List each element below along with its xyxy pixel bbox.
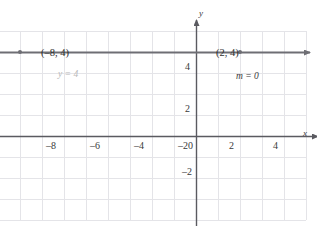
x-tick-label: 4 [273, 141, 278, 151]
x-tick-label: –8 [46, 141, 56, 151]
equation-label: y = 4 [58, 70, 78, 80]
x-tick-label: –4 [134, 141, 144, 151]
x-tick-label: 2 [229, 141, 234, 151]
x-tick-label: –2 [178, 141, 188, 151]
x-tick-origin-label: 0 [188, 141, 193, 151]
point-label-left: (–8, 4) [41, 48, 69, 59]
point-label-right: (2, 4) [216, 48, 239, 59]
slope-label: m = 0 [236, 72, 259, 82]
graph-figure: –8 –6 –4 –2 0 2 4 4 2 –2 y x (–8, 4) (2,… [0, 0, 317, 226]
coordinate-plane-svg [0, 0, 317, 226]
x-axis-label: x [303, 129, 307, 138]
y-tick-label: –2 [182, 167, 192, 177]
data-point-0 [18, 50, 22, 54]
y-tick-label: 4 [185, 62, 190, 72]
y-axis-label: y [199, 9, 203, 18]
y-tick-label: 2 [185, 104, 190, 114]
x-tick-label: –6 [90, 141, 100, 151]
grid-lines [0, 31, 307, 221]
